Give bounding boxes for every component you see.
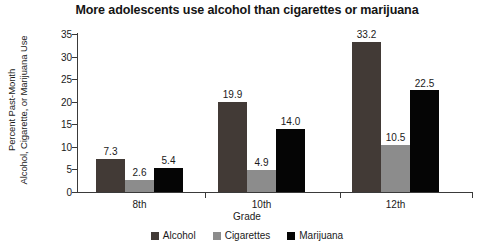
value-label-12th-cigarettes: 10.5 xyxy=(386,132,405,143)
y-tick-label-15: 15 xyxy=(50,119,72,130)
value-label-10th-cigarettes: 4.9 xyxy=(255,157,269,168)
legend-label-alcohol: Alcohol xyxy=(163,230,196,241)
value-label-8th-marijuana: 5.4 xyxy=(162,155,176,166)
legend: Alcohol Cigarettes Marijuana xyxy=(0,230,494,241)
y-axis-title-line-2: Alcohol, Cigarette, or Marijuana Use xyxy=(18,36,29,185)
legend-swatch-icon-cigarettes xyxy=(213,232,221,240)
bar-12th-alcohol xyxy=(352,42,381,192)
bar-10th-marijuana xyxy=(276,129,305,192)
y-axis-title: Percent Past-Month Alcohol, Cigarette, o… xyxy=(0,24,34,196)
value-label-8th-alcohol: 7.3 xyxy=(104,146,118,157)
value-label-12th-marijuana: 22.5 xyxy=(415,78,434,89)
bar-chart: More adolescents use alcohol than cigare… xyxy=(0,0,494,250)
bar-10th-cigarettes xyxy=(247,170,276,192)
value-label-12th-alcohol: 33.2 xyxy=(357,29,376,40)
y-axis-title-line-1: Percent Past-Month xyxy=(6,69,17,151)
x-group-label-12th: 12th xyxy=(386,199,405,210)
legend-swatch-icon-marijuana xyxy=(287,232,295,240)
value-label-10th-marijuana: 14.0 xyxy=(281,116,300,127)
x-group-label-8th: 8th xyxy=(133,199,147,210)
bar-8th-cigarettes xyxy=(125,180,154,192)
legend-item-alcohol[interactable]: Alcohol xyxy=(151,230,196,241)
bar-12th-marijuana xyxy=(410,90,439,192)
x-tick-mark-1 xyxy=(205,193,206,198)
y-tick-label-30: 30 xyxy=(50,51,72,62)
x-axis-title: Grade xyxy=(0,211,494,222)
legend-item-cigarettes[interactable]: Cigarettes xyxy=(213,230,271,241)
x-tick-mark-3 xyxy=(472,193,473,198)
y-tick-label-0: 0 xyxy=(50,187,72,198)
x-axis-line xyxy=(77,192,473,193)
y-tick-label-20: 20 xyxy=(50,96,72,107)
bar-8th-marijuana xyxy=(154,168,183,192)
x-tick-mark-2 xyxy=(340,193,341,198)
y-tick-label-35: 35 xyxy=(50,29,72,40)
chart-title: More adolescents use alcohol than cigare… xyxy=(0,3,494,17)
value-label-8th-cigarettes: 2.6 xyxy=(133,167,147,178)
y-tick-label-10: 10 xyxy=(50,141,72,152)
y-tick-label-5: 5 xyxy=(50,164,72,175)
bar-10th-alcohol xyxy=(218,102,247,192)
legend-label-cigarettes: Cigarettes xyxy=(225,230,271,241)
legend-item-marijuana[interactable]: Marijuana xyxy=(287,230,343,241)
y-tick-label-25: 25 xyxy=(50,74,72,85)
bar-8th-alcohol xyxy=(96,159,125,192)
value-label-10th-alcohol: 19.9 xyxy=(223,89,242,100)
x-group-label-10th: 10th xyxy=(252,199,271,210)
y-tick-mark-0 xyxy=(72,192,77,193)
bar-12th-cigarettes xyxy=(381,145,410,192)
legend-label-marijuana: Marijuana xyxy=(299,230,343,241)
legend-swatch-icon-alcohol xyxy=(151,232,159,240)
